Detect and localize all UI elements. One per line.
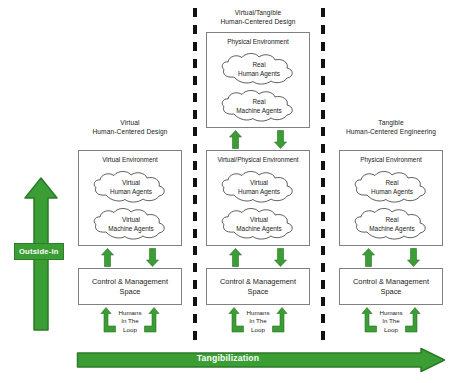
cloud-line-2: Machine Agents bbox=[108, 225, 153, 234]
cloud-label: Real Machine Agents bbox=[219, 90, 299, 123]
tangibilization-label: Tangibilization bbox=[0, 353, 456, 363]
cloud-label: Virtual Human Agents bbox=[219, 171, 299, 204]
caption-line-1: Tangible bbox=[332, 118, 450, 127]
caption-line-1: Virtual bbox=[72, 118, 188, 127]
cloud-label: Virtual Machine Agents bbox=[219, 208, 299, 241]
diagram-canvas: Virtual Human-Centered Design Virtual En… bbox=[0, 0, 456, 383]
cloud-line-2: Machine Agents bbox=[369, 225, 414, 234]
arrow-down-environment-to-control bbox=[407, 248, 420, 267]
cloud-line-2: Machine Agents bbox=[236, 225, 281, 234]
cloud-line-1: Real bbox=[385, 179, 398, 188]
control-management-label: Control & Management Space bbox=[207, 269, 309, 304]
hitl-line-3: Loop bbox=[373, 326, 409, 334]
cloud-virtual-human-agents: Virtual Human Agents bbox=[91, 171, 171, 204]
environment-box-virtual: Virtual Environment Virtual Human Agents… bbox=[78, 150, 182, 246]
column-caption-tangible: Tangible Human-Centered Engineering bbox=[332, 118, 450, 136]
control-line-1: Control & Management bbox=[92, 277, 168, 287]
cloud-label: Virtual Machine Agents bbox=[91, 208, 171, 241]
environment-title: Physical Environment bbox=[207, 38, 309, 45]
hitl-line-1: Humans bbox=[240, 309, 276, 317]
control-management-box-virtual: Control & Management Space bbox=[78, 268, 182, 305]
cloud-label: Real Human Agents bbox=[352, 171, 432, 204]
cloud-line-1: Virtual bbox=[122, 179, 140, 188]
environment-title: Physical Environment bbox=[340, 156, 442, 163]
control-line-1: Control & Management bbox=[220, 277, 296, 287]
column-caption-virtual: Virtual Human-Centered Design bbox=[72, 118, 188, 136]
cloud-real-human-agents: Real Human Agents bbox=[219, 53, 299, 86]
environment-box-physical-middle: Physical Environment Real Human Agents R… bbox=[206, 32, 310, 128]
cloud-line-1: Real bbox=[252, 98, 265, 107]
arrow-up-control-to-environment bbox=[362, 248, 375, 267]
cloud-virtual-machine-agents: Virtual Machine Agents bbox=[219, 208, 299, 241]
cloud-label: Virtual Human Agents bbox=[91, 171, 171, 204]
humans-in-the-loop-label-virtual-tangible: Humans In The Loop bbox=[240, 309, 276, 334]
hitl-line-2: In The bbox=[373, 317, 409, 325]
cloud-real-machine-agents: Real Machine Agents bbox=[219, 90, 299, 123]
humans-in-the-loop-label-tangible: Humans In The Loop bbox=[373, 309, 409, 334]
control-management-label: Control & Management Space bbox=[79, 269, 181, 304]
environment-title: Virtual Environment bbox=[79, 156, 181, 163]
hitl-line-2: In The bbox=[240, 317, 276, 325]
cloud-line-1: Real bbox=[252, 61, 265, 70]
cloud-real-machine-agents: Real Machine Agents bbox=[352, 208, 432, 241]
cloud-line-1: Virtual bbox=[250, 179, 268, 188]
hitl-line-3: Loop bbox=[112, 326, 148, 334]
arrow-down-environment-to-control bbox=[146, 248, 159, 267]
humans-in-the-loop-label-virtual: Humans In The Loop bbox=[112, 309, 148, 334]
control-line-2: Space bbox=[248, 287, 269, 297]
caption-line-2: Human-Centered Design bbox=[72, 127, 188, 136]
control-line-2: Space bbox=[381, 287, 402, 297]
cloud-line-2: Machine Agents bbox=[236, 107, 281, 116]
arrow-up-control-to-environment bbox=[229, 248, 242, 267]
cloud-line-2: Human Agents bbox=[238, 188, 280, 197]
environment-title: Virtual/Physical Environment bbox=[207, 156, 309, 163]
cloud-line-2: Human Agents bbox=[238, 70, 280, 79]
environment-box-virtual-physical: Virtual/Physical Environment Virtual Hum… bbox=[206, 150, 310, 246]
control-line-1: Control & Management bbox=[353, 277, 429, 287]
cloud-label: Real Machine Agents bbox=[352, 208, 432, 241]
control-line-2: Space bbox=[120, 287, 141, 297]
caption-line-2: Human-Centered Design bbox=[200, 17, 316, 26]
cloud-line-1: Virtual bbox=[250, 216, 268, 225]
caption-line-2: Human-Centered Engineering bbox=[332, 127, 450, 136]
arrow-down-environment-to-control bbox=[274, 248, 287, 267]
cloud-virtual-human-agents: Virtual Human Agents bbox=[219, 171, 299, 204]
cloud-line-2: Human Agents bbox=[371, 188, 413, 197]
cloud-virtual-machine-agents: Virtual Machine Agents bbox=[91, 208, 171, 241]
column-divider-right bbox=[321, 8, 325, 345]
cloud-label: Real Human Agents bbox=[219, 53, 299, 86]
hitl-line-1: Humans bbox=[112, 309, 148, 317]
outside-in-label: Outside-in bbox=[14, 243, 64, 260]
environment-box-physical-right: Physical Environment Real Human Agents R… bbox=[339, 150, 443, 246]
hitl-line-3: Loop bbox=[240, 326, 276, 334]
caption-line-1: Virtual/Tangible bbox=[200, 8, 316, 17]
arrow-down-upper-to-lower-environment bbox=[274, 130, 287, 149]
cloud-line-1: Virtual bbox=[122, 216, 140, 225]
hitl-line-1: Humans bbox=[373, 309, 409, 317]
cloud-line-1: Real bbox=[385, 216, 398, 225]
column-divider-left bbox=[193, 8, 197, 345]
arrow-up-lower-to-upper-environment bbox=[229, 130, 242, 149]
control-management-box-virtual-tangible: Control & Management Space bbox=[206, 268, 310, 305]
control-management-label: Control & Management Space bbox=[340, 269, 442, 304]
arrow-up-control-to-environment bbox=[101, 248, 114, 267]
control-management-box-tangible: Control & Management Space bbox=[339, 268, 443, 305]
column-caption-virtual-tangible: Virtual/Tangible Human-Centered Design bbox=[200, 8, 316, 26]
hitl-line-2: In The bbox=[112, 317, 148, 325]
cloud-line-2: Human Agents bbox=[110, 188, 152, 197]
cloud-real-human-agents: Real Human Agents bbox=[352, 171, 432, 204]
